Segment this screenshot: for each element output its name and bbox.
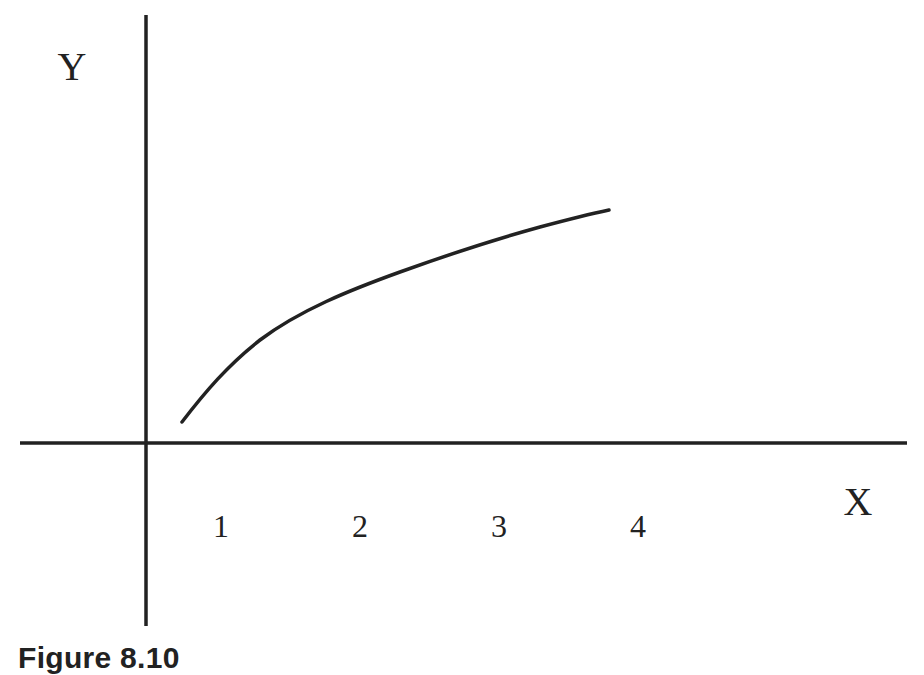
x-axis-label: X: [844, 479, 873, 524]
x-tick-2: 2: [352, 508, 368, 544]
x-tick-3: 3: [491, 508, 507, 544]
data-curve: [182, 210, 609, 422]
y-axis-label: Y: [58, 44, 87, 89]
x-tick-1: 1: [213, 508, 229, 544]
x-tick-4: 4: [630, 508, 646, 544]
figure-caption: Figure 8.10: [18, 641, 180, 675]
